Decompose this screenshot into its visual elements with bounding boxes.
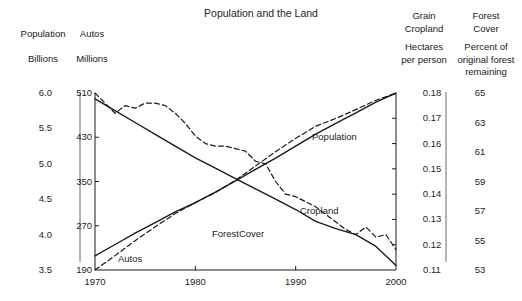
y-tick-label-autos: 270: [76, 220, 92, 231]
series-label-cropland: Cropland: [300, 205, 339, 216]
y-tick-label-population: 5.5: [39, 122, 52, 133]
y-tick-label-cropland: 0.11: [423, 264, 441, 275]
y-tick-label-cropland: 0.15: [423, 163, 442, 174]
series-line-autos: [95, 93, 396, 270]
y-tick-label-autos: 510: [76, 87, 92, 98]
y-tick-label-population: 4.0: [39, 229, 52, 240]
y-tick-label-autos: 350: [76, 176, 92, 187]
series-label-autos: Autos: [118, 253, 142, 264]
y-tick-label-forest: 53: [475, 264, 486, 275]
series-line-cropland: [95, 93, 396, 250]
y-tick-label-cropland: 0.13: [423, 213, 442, 224]
y-tick-label-cropland: 0.16: [423, 138, 442, 149]
x-tick-label: 1970: [84, 276, 105, 287]
y-tick-label-population: 3.5: [39, 264, 52, 275]
y-tick-label-cropland: 0.12: [423, 239, 442, 250]
y-tick-label-forest: 57: [475, 205, 486, 216]
y-tick-label-forest: 59: [475, 176, 486, 187]
series-label-population: Population: [312, 131, 357, 142]
y-tick-label-cropland: 0.17: [423, 112, 442, 123]
y-tick-label-autos: 190: [76, 264, 92, 275]
y-tick-label-cropland: 0.14: [423, 188, 442, 199]
series-label-forest: ForestCover: [212, 228, 264, 239]
y-tick-label-forest: 55: [475, 235, 486, 246]
y-tick-label-forest: 61: [475, 146, 486, 157]
y-tick-label-population: 5.0: [39, 158, 52, 169]
plot-area: [0, 0, 522, 301]
x-tick-label: 1990: [285, 276, 306, 287]
chart-container: Population and the Land Population Billi…: [0, 0, 522, 301]
y-tick-label-population: 6.0: [39, 87, 52, 98]
y-tick-label-population: 4.5: [39, 193, 52, 204]
series-line-forest: [95, 99, 396, 266]
y-tick-label-autos: 430: [76, 131, 92, 142]
x-tick-label: 2000: [385, 276, 406, 287]
y-tick-label-forest: 65: [475, 87, 486, 98]
x-tick-label: 1980: [185, 276, 206, 287]
y-tick-label-cropland: 0.18: [423, 87, 442, 98]
y-tick-label-forest: 63: [475, 117, 486, 128]
